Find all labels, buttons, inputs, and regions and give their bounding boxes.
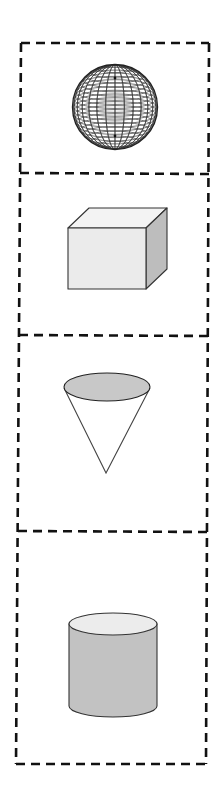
shapes-diagram (0, 0, 224, 804)
divider-2 (19, 335, 208, 336)
cylinder-body (69, 624, 157, 717)
outer-right-border (206, 43, 209, 764)
divider-1 (20, 173, 209, 174)
sphere-panel (73, 65, 158, 150)
cylinder-icon (69, 613, 157, 717)
cube-icon (68, 208, 167, 289)
cone-top-ellipse (64, 373, 150, 401)
cone-icon (64, 373, 150, 473)
outer-left-border (16, 43, 21, 764)
divider-3 (18, 531, 207, 532)
cylinder-top-ellipse (69, 613, 157, 635)
cube-front-face (68, 228, 146, 289)
